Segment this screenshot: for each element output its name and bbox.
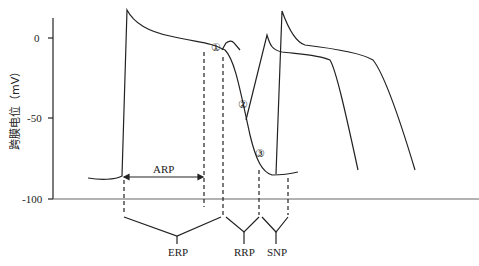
y-axis-label: 跨膜电位（mV） xyxy=(6,66,22,150)
marker-3: ③ xyxy=(255,148,265,159)
marker-1: ① xyxy=(211,42,221,53)
erp-label: ERP xyxy=(168,247,188,258)
erp-bracket xyxy=(124,217,221,236)
snp-label: SNP xyxy=(267,247,287,258)
rrp-bracket xyxy=(226,217,259,232)
arp-label: ARP xyxy=(153,164,174,175)
y-tick-neg50: -50 xyxy=(27,113,42,124)
y-tick-neg100: -100 xyxy=(22,194,42,205)
snp-bracket xyxy=(262,217,288,232)
marker-2: ② xyxy=(238,99,248,110)
diagram-canvas xyxy=(0,0,479,266)
action-potential-diagram: 0 -50 -100 跨膜电位（mV） ARP ① ② ③ ERP RRP SN… xyxy=(0,0,479,266)
rrp-label: RRP xyxy=(234,247,255,258)
y-tick-0: 0 xyxy=(34,33,40,44)
